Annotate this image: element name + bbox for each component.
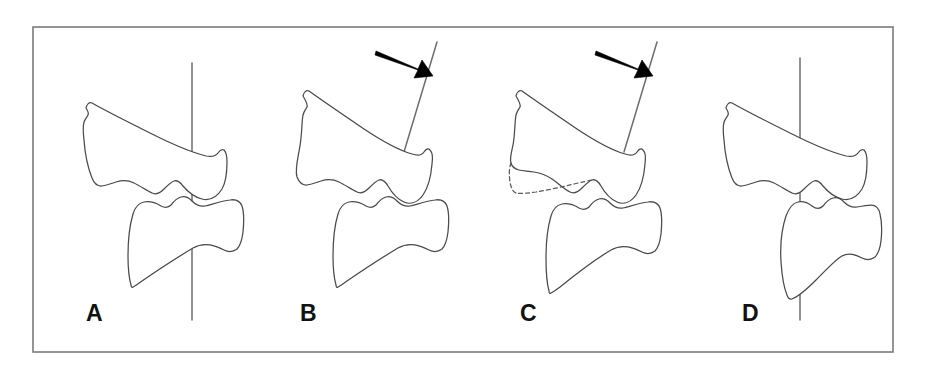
figure-root: A B <box>0 0 928 379</box>
panel-label-c: C <box>520 300 537 326</box>
panel-label-d: D <box>742 300 759 326</box>
panel-label-a: A <box>86 300 103 326</box>
figure-canvas: A B <box>0 0 928 379</box>
panel-label-b: B <box>300 300 317 326</box>
